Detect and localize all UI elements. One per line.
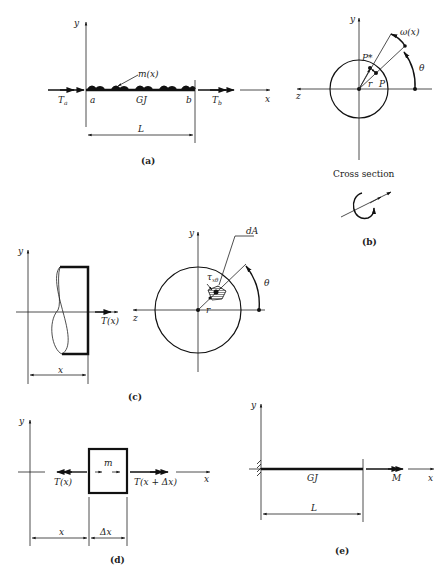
element-box [89,449,127,493]
caption-c: (c) [128,392,142,402]
mx-label: m(x) [138,69,159,79]
theta-label: θ [419,63,425,73]
p-label: P [378,79,386,89]
panel-c: y T(x) x (c) [16,246,142,402]
y-axis-label-c2: y [188,228,195,238]
r-label: r [368,79,373,89]
torsion-figure: y Ta m(x) Tb x a GJ b L (a) y z [0,0,446,577]
tx-label: T(x) [101,316,120,326]
caption-b: (b) [362,237,377,247]
da-label: dA [246,226,259,236]
p-star-label: P* [361,53,373,63]
x-dim-label: x [59,527,64,537]
panel-c-cross-section: y z dA τxθ r θ [132,226,270,372]
end-a-label: a [90,95,95,105]
cut-section [60,267,88,354]
panel-d: y x T(x) m T(x + Δx) x Δx (d) [18,416,210,565]
end-b-label: b [186,95,192,105]
tx-dx-label: T(x + Δx) [134,477,177,487]
theta-label: θ [264,278,270,288]
y-axis-label: y [17,246,24,256]
gj-label: GJ [136,95,148,105]
z-axis-label: z [132,313,138,323]
torque-ta-label: Ta [58,95,68,106]
caption-a: (a) [141,156,155,166]
x-axis-label: x [204,474,209,484]
length-label: L [310,503,317,513]
radial-line [198,264,246,310]
panel-b: y z ω(x) θ P* P r Cross section (b) [295,14,432,247]
cross-section-caption: Cross section [333,169,395,179]
y-axis-label: y [250,400,257,410]
y-axis-label: y [73,18,80,28]
rotation-axis-arrow [341,192,391,217]
moment-label: M [391,473,402,483]
panel-a: y Ta m(x) Tb x a GJ b L (a) [48,18,270,166]
distributed-load [88,87,195,90]
x-axis-label: x [265,94,270,104]
tx-label: T(x) [54,477,73,487]
x-dim-label: x [58,365,63,375]
mx-leader [118,75,138,86]
gj-label: GJ [307,473,319,483]
y-axis-label: y [349,14,356,24]
twist-loop [52,267,68,354]
panel-e: y GJ M x L (e) [249,400,434,556]
torque-tb-label: Tb [212,95,222,106]
x-axis-label: x [428,473,433,483]
caption-d: (d) [110,555,125,565]
length-label: L [137,124,144,134]
theta-arc [404,52,415,89]
y-axis-label: y [18,416,25,426]
theta-arc [246,266,259,310]
fixed-support [257,460,261,476]
caption-e: (e) [335,546,349,556]
z-axis-label: z [295,91,301,101]
m-label: m [104,458,113,468]
dx-label: Δx [99,527,112,537]
r-label: r [206,305,211,315]
tau-label: τxθ [207,272,219,283]
omega-label: ω(x) [400,27,420,37]
